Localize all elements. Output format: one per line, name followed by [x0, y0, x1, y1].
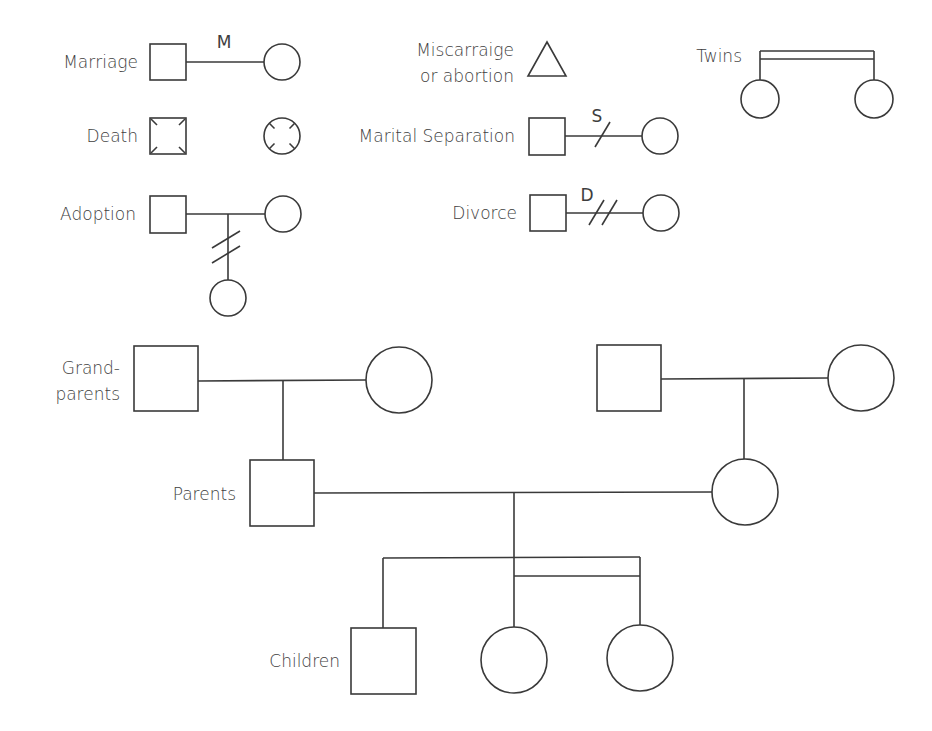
twin-daughter-circle — [481, 627, 547, 693]
adoption-slash-icon — [212, 246, 240, 263]
legend-marriage: Marriage M — [63, 32, 300, 80]
legend-separation: Marital Separation S — [359, 106, 678, 155]
female-circle-icon — [643, 195, 679, 231]
miscarriage-label-line1: Miscarraige — [416, 40, 514, 60]
deceased-female-icon — [264, 118, 300, 154]
family-tree: Grand- parents Parents Children — [55, 345, 894, 694]
adopted-child-circle-icon — [210, 280, 246, 316]
legend-divorce: Divorce D — [452, 185, 679, 231]
male-square-icon — [529, 118, 565, 155]
maternal-grandfather-square — [597, 345, 661, 411]
divorce-label: Divorce — [452, 203, 517, 223]
maternal-grandmother-circle — [828, 345, 894, 411]
mother-circle — [712, 459, 778, 525]
male-square-icon — [530, 195, 566, 231]
father-square — [250, 460, 314, 526]
maternal-grandparents-marriage-line — [661, 378, 828, 379]
death-label: Death — [87, 126, 138, 146]
children-label: Children — [269, 651, 340, 671]
twin-circle-icon — [855, 80, 893, 118]
grandparents-label-line1: Grand- — [62, 358, 120, 378]
genogram-legend-diagram: Marriage M Death Adoption — [0, 0, 932, 731]
deceased-male-icon — [150, 118, 186, 154]
adoption-slash-icon — [212, 231, 240, 248]
female-circle-icon — [265, 196, 301, 232]
triangle-icon — [528, 42, 566, 76]
son-square — [351, 628, 416, 694]
paternal-grandparents-marriage-line — [198, 380, 366, 381]
grandparents-label-line2: parents — [55, 384, 120, 404]
twin-daughter-circle — [607, 625, 673, 691]
female-circle-icon — [642, 118, 678, 154]
legend-death: Death — [87, 118, 300, 154]
parents-marriage-line — [314, 492, 712, 493]
divorce-letter: D — [580, 185, 593, 205]
male-square-icon — [150, 196, 186, 233]
parents-label: Parents — [173, 484, 236, 504]
twins-label: Twins — [696, 46, 742, 66]
adoption-label: Adoption — [60, 204, 136, 224]
legend-twins: Twins — [696, 46, 893, 118]
separation-label: Marital Separation — [359, 126, 515, 146]
legend-adoption: Adoption — [60, 196, 301, 316]
paternal-grandmother-circle — [366, 347, 432, 413]
separation-letter: S — [592, 106, 603, 126]
miscarriage-label-line2: or abortion — [420, 66, 514, 86]
legend-miscarriage: Miscarraige or abortion — [416, 40, 566, 86]
marriage-label: Marriage — [63, 52, 138, 72]
paternal-grandfather-square — [134, 346, 198, 411]
marriage-letter: M — [217, 32, 232, 52]
female-circle-icon — [264, 44, 300, 80]
twin-circle-icon — [741, 80, 779, 118]
male-square-icon — [150, 44, 186, 80]
sibship-line — [383, 557, 640, 558]
